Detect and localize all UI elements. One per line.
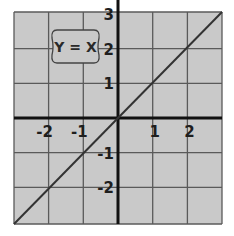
- equation-text: Y = X: [53, 39, 97, 55]
- x-tick-label: 2: [184, 123, 194, 141]
- y-tick-label: 2: [104, 41, 114, 59]
- y-tick-label: -2: [97, 179, 114, 197]
- graph-y-equals-x: -2-112 321-1-2 Y = X: [0, 0, 234, 236]
- x-tick-label: -1: [71, 123, 88, 141]
- equation-label: Y = X: [52, 30, 99, 63]
- y-tick-label: 1: [104, 75, 114, 93]
- x-tick-label: -2: [36, 123, 53, 141]
- y-tick-label: 3: [104, 6, 114, 24]
- y-tick-label: -1: [97, 145, 114, 163]
- x-tick-label: 1: [149, 123, 159, 141]
